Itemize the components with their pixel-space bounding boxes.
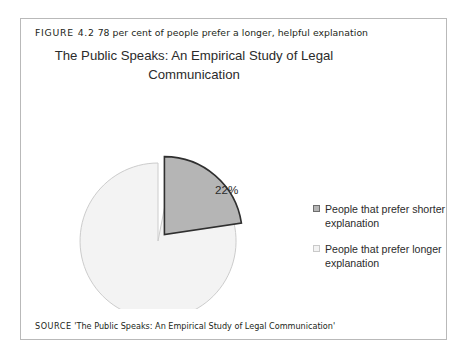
pie-label-shorter: 22% <box>215 183 238 196</box>
chart-area: The Public Speaks: An Empirical Study of… <box>21 43 446 313</box>
chart-legend: People that prefer shorter explanation P… <box>313 203 453 283</box>
chart-title-line-1: The Public Speaks: An Empirical Study of… <box>39 47 349 66</box>
figure-source-text: 'The Public Speaks: An Empirical Study o… <box>74 321 335 331</box>
figure-number-label: FIGURE 4.2 <box>35 27 95 38</box>
legend-item-longer: People that prefer longer explanation <box>313 243 453 271</box>
figure-caption: FIGURE 4.2 78 per cent of people prefer … <box>35 27 436 38</box>
legend-label-longer-line-2: explanation <box>325 257 379 269</box>
figure-source: SOURCE 'The Public Speaks: An Empirical … <box>35 321 436 331</box>
legend-swatch-longer-icon <box>313 245 320 252</box>
legend-item-shorter: People that prefer shorter explanation <box>313 203 453 231</box>
pie-chart: 22% 78% <box>21 79 271 309</box>
legend-label-shorter-line-2: explanation <box>325 217 379 229</box>
legend-label-longer-line-1: People that prefer longer <box>325 243 442 255</box>
legend-label-shorter-line-1: People that prefer shorter <box>325 203 445 215</box>
figure-frame: FIGURE 4.2 78 per cent of people prefer … <box>20 18 447 340</box>
figure-source-label: SOURCE <box>35 321 72 331</box>
figure-caption-text: 78 per cent of people prefer a longer, h… <box>98 27 368 38</box>
legend-swatch-shorter-icon <box>313 205 320 212</box>
